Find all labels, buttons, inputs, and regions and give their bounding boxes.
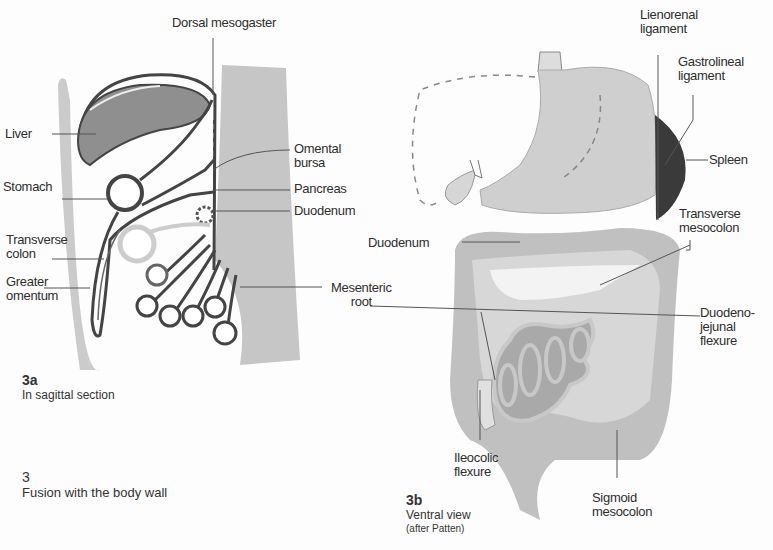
caption-3b-id: 3b <box>406 493 471 508</box>
label-dorsal-mesogaster: Dorsal mesogaster <box>172 16 276 30</box>
label-sigmoid-line2: mesocolon <box>592 504 652 519</box>
label-greater-omentum-line1: Greater <box>6 274 48 289</box>
label-transverse-mesocolon-line2: mesocolon <box>679 220 739 235</box>
label-duodenum-b: Duodenum <box>368 236 429 250</box>
label-omental-bursa-line2: bursa <box>294 155 325 170</box>
caption-3a: 3a In sagittal section <box>22 373 115 403</box>
label-ileocolic-flexure: Ileocolic flexure <box>454 451 498 479</box>
figure-caption: 3 Fusion with the body wall <box>22 470 167 500</box>
label-duodenojejunal-line1: Duodeno- <box>700 305 755 320</box>
label-lienorenal-line2: ligament <box>640 21 687 36</box>
label-greater-omentum: Greater omentum <box>6 275 58 303</box>
caption-3a-text: In sagittal section <box>22 388 115 403</box>
caption-3b-text: Ventral view <box>406 508 471 523</box>
label-omental-bursa-line1: Omental <box>294 141 341 156</box>
label-gastrolineal-line2: ligament <box>678 68 725 83</box>
label-lienorenal-line1: Lienorenal <box>640 7 698 22</box>
label-transverse-colon-line1: Transverse <box>6 232 68 247</box>
label-sigmoid-mesocolon: Sigmoid mesocolon <box>592 491 652 519</box>
caption-3a-id: 3a <box>22 373 115 388</box>
label-sigmoid-line1: Sigmoid <box>592 490 637 505</box>
label-duodenojejunal-line3: flexure <box>700 333 737 348</box>
label-liver: Liver <box>5 127 32 141</box>
label-ileocolic-line2: flexure <box>454 464 491 479</box>
caption-3b-note: (after Patten) <box>406 523 471 534</box>
label-spleen: Spleen <box>709 153 748 167</box>
label-duodenum-a: Duodenum <box>294 204 355 218</box>
embryology-figure: Dorsal mesogaster Liver Stomach Transver… <box>0 0 773 550</box>
stomach-shape-ventral <box>480 67 656 213</box>
label-transverse-mesocolon-line1: Transverse <box>679 206 741 221</box>
figure-caption-text: Fusion with the body wall <box>22 485 167 500</box>
label-mesenteric-root: Mesenteric root <box>331 281 392 309</box>
label-duodenojejunal-line2: jejunal <box>700 319 736 334</box>
label-lienorenal-ligament: Lienorenal ligament <box>640 8 698 36</box>
label-ileocolic-line1: Ileocolic <box>454 450 498 465</box>
label-greater-omentum-line2: omentum <box>6 288 58 303</box>
label-transverse-colon: Transverse colon <box>6 233 68 261</box>
label-pancreas: Pancreas <box>294 182 347 196</box>
figure-number: 3 <box>22 470 167 485</box>
label-omental-bursa: Omental bursa <box>294 142 341 170</box>
label-mesenteric-root-line2: root <box>351 294 372 309</box>
spleen-shape <box>655 115 686 220</box>
label-gastrolineal-line1: Gastrolineal <box>678 54 744 69</box>
label-stomach: Stomach <box>3 180 52 194</box>
label-transverse-mesocolon: Transverse mesocolon <box>679 207 741 235</box>
ventral-view-drawing <box>0 0 773 550</box>
label-duodenojejunal-flexure: Duodeno- jejunal flexure <box>700 306 755 348</box>
label-transverse-colon-line2: colon <box>6 246 36 261</box>
label-gastrolineal-ligament: Gastrolineal ligament <box>678 55 744 83</box>
label-mesenteric-root-line1: Mesenteric <box>331 280 392 295</box>
caption-3b: 3b Ventral view (after Patten) <box>406 493 471 534</box>
